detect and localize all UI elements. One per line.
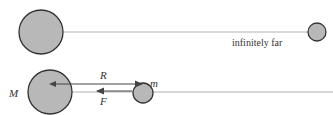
force-label: F bbox=[99, 95, 107, 107]
diagram-svg: infinitely far R m F M bbox=[0, 0, 333, 115]
small-mass-label: m bbox=[150, 77, 158, 89]
distance-label: R bbox=[99, 69, 107, 81]
big-mass-label: M bbox=[8, 87, 19, 99]
small-mass-top bbox=[308, 23, 326, 41]
bottom-scene: R m F M bbox=[8, 69, 333, 114]
infinitely-far-label: infinitely far bbox=[232, 37, 283, 48]
top-scene: infinitely far bbox=[19, 10, 326, 54]
big-mass-top bbox=[19, 10, 63, 54]
big-mass-bottom bbox=[28, 70, 72, 114]
gravity-diagram: infinitely far R m F M bbox=[0, 0, 333, 115]
